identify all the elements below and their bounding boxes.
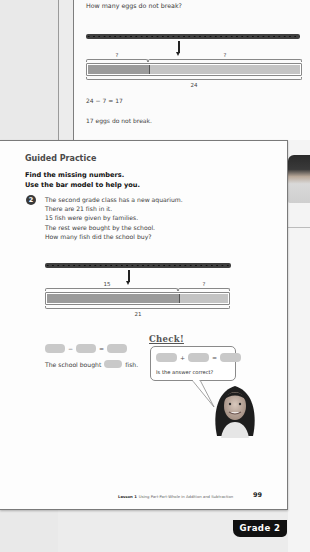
answer-blank[interactable] — [45, 344, 65, 353]
plus-sign: + — [180, 354, 185, 361]
bar — [45, 292, 230, 305]
question-line: 15 fish were given by families. — [45, 213, 183, 222]
equals-sign: = — [99, 345, 104, 352]
arrow-down-icon — [128, 270, 130, 282]
question-line: How many fish did the school buy? — [45, 232, 183, 241]
instruction-line: Use the bar model to help you. — [25, 181, 140, 189]
equals-sign: = — [212, 354, 217, 361]
section-title: Guided Practice — [25, 154, 96, 163]
bar-part-dark — [88, 65, 149, 74]
bar-label-whole: 24 — [191, 82, 198, 88]
answer-blank[interactable] — [107, 344, 127, 353]
back-page: How many eggs do not break? ? ? 24 24 − … — [73, 0, 310, 140]
bar — [86, 63, 302, 76]
answer-sentence: The school bought fish. — [45, 360, 138, 368]
equation-row: − = — [45, 344, 127, 353]
grade-tab: Grade 2 — [233, 520, 287, 537]
bar-label-part2: ? — [203, 281, 206, 287]
bar-label-part1: ? — [116, 52, 119, 58]
question-line: The second grade class has a new aquariu… — [45, 195, 183, 204]
answer-blank[interactable] — [220, 353, 241, 362]
front-bar-model: 15 ? 21 — [45, 284, 230, 314]
arrow-down-icon — [178, 41, 180, 53]
bar-label-whole: 21 — [135, 311, 142, 317]
back-question: How many eggs do not break? — [86, 2, 182, 9]
instruction-line: Find the missing numbers. — [25, 171, 124, 179]
question-number-badge: 2 — [26, 195, 36, 205]
answer-blank[interactable] — [104, 360, 122, 368]
check-question: Is the answer correct? — [156, 369, 213, 375]
brace — [86, 77, 302, 80]
brace — [86, 59, 148, 62]
egg-bead-string — [86, 34, 300, 39]
back-bar-model: ? ? 24 — [86, 55, 302, 85]
child-photo-partial — [288, 155, 310, 203]
minus-sign: − — [68, 345, 73, 352]
sentence-end: fish. — [125, 361, 138, 368]
question-text: The second grade class has a new aquariu… — [45, 195, 183, 241]
page-footer: Lesson 1 Using Part-Part-Whole in Additi… — [118, 494, 233, 499]
brace — [45, 288, 178, 291]
check-speech-bubble: + = Is the answer correct? — [150, 346, 236, 381]
back-equation: 24 − 7 = 17 — [86, 97, 123, 104]
bar-part-light — [149, 65, 300, 74]
answer-blank[interactable] — [188, 353, 209, 362]
check-equation-row: + = — [156, 353, 241, 362]
bar-label-part1: 15 — [104, 281, 111, 287]
page-number: 99 — [253, 491, 262, 499]
answer-blank[interactable] — [76, 344, 96, 353]
brace — [45, 306, 230, 309]
brace — [148, 59, 302, 62]
bar-part-light — [179, 294, 228, 303]
brace — [178, 288, 230, 291]
lesson-number: Lesson 1 — [118, 494, 137, 499]
question-line: There are 21 fish in it. — [45, 204, 183, 213]
answer-blank[interactable] — [156, 353, 177, 362]
lesson-title: Using Part-Part-Whole in Addition and Su… — [139, 494, 233, 499]
page-edge — [58, 0, 59, 140]
bar-part-dark — [47, 294, 179, 303]
check-title: Check! — [149, 334, 184, 344]
child-photo — [205, 378, 265, 438]
back-answer: 17 eggs do not break. — [86, 117, 152, 124]
divider — [288, 227, 310, 228]
sentence-start: The school bought — [45, 361, 101, 368]
question-line: The rest were bought by the school. — [45, 223, 183, 232]
bar-label-part2: ? — [224, 52, 227, 58]
fish-bead-string — [45, 263, 231, 268]
front-page: Guided Practice Find the missing numbers… — [0, 140, 288, 510]
